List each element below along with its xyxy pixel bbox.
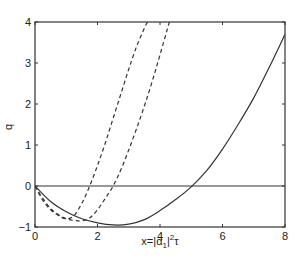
y-axis-label: q: [2, 124, 14, 130]
series-solid: [35, 34, 285, 225]
y-tick-label: 4: [25, 16, 31, 28]
x-tick-label: 0: [32, 230, 38, 242]
y-tick-label: 3: [25, 57, 31, 69]
y-tick-label: 1: [25, 139, 31, 151]
x-tick-label: 2: [94, 230, 100, 242]
chart: 02468 −101234 q x=|α1|2τ: [0, 0, 298, 262]
plot-area: [35, 22, 285, 225]
x-tick-label: 6: [219, 230, 225, 242]
plot-frame: [35, 22, 285, 227]
y-tick-label: 2: [25, 98, 31, 110]
y-tick-label: −1: [18, 221, 31, 233]
x-axis-label: x=|α1|2τ: [141, 233, 179, 250]
series-dashed-2: [35, 22, 169, 221]
x-tick-label: 8: [282, 230, 288, 242]
series-dashed-1: [35, 22, 148, 219]
y-tick-label: 0: [25, 180, 31, 192]
y-axis-ticks: −101234: [18, 16, 285, 233]
x-axis-ticks: 02468: [32, 22, 288, 242]
